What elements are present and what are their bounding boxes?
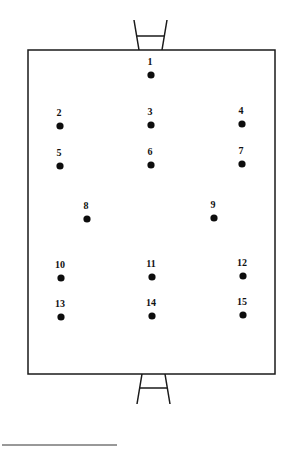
position-dot bbox=[147, 121, 154, 128]
position-dot bbox=[57, 313, 64, 320]
position-marker: 1 bbox=[147, 56, 154, 79]
position-dot bbox=[147, 161, 154, 168]
position-marker: 8 bbox=[83, 200, 90, 223]
field-boundary bbox=[28, 50, 275, 374]
position-label: 8 bbox=[84, 200, 89, 211]
position-label: 4 bbox=[239, 105, 244, 116]
position-dot bbox=[238, 160, 245, 167]
position-marker: 12 bbox=[237, 257, 247, 280]
position-dot bbox=[56, 122, 63, 129]
position-marker: 2 bbox=[56, 107, 63, 130]
position-label: 15 bbox=[237, 296, 247, 307]
position-marker: 13 bbox=[55, 298, 65, 321]
position-label: 10 bbox=[55, 259, 65, 270]
position-dot bbox=[210, 214, 217, 221]
position-dot bbox=[57, 274, 64, 281]
position-label: 14 bbox=[146, 297, 156, 308]
position-label: 1 bbox=[148, 56, 153, 67]
position-marker: 9 bbox=[210, 199, 217, 222]
top-goalposts bbox=[134, 20, 167, 50]
position-label: 5 bbox=[57, 147, 62, 158]
bottom-goalposts bbox=[137, 374, 170, 404]
position-marker: 3 bbox=[147, 106, 154, 129]
position-label: 13 bbox=[55, 298, 65, 309]
position-marker: 14 bbox=[146, 297, 156, 320]
position-dot bbox=[148, 312, 155, 319]
position-label: 2 bbox=[57, 107, 62, 118]
position-marker: 4 bbox=[238, 105, 245, 128]
position-label: 11 bbox=[146, 258, 155, 269]
field-diagram: 123456789101112131415 bbox=[0, 0, 292, 451]
position-label: 6 bbox=[148, 146, 153, 157]
position-dot bbox=[56, 162, 63, 169]
position-label: 3 bbox=[148, 106, 153, 117]
position-marker: 10 bbox=[55, 259, 65, 282]
position-dot bbox=[239, 272, 246, 279]
position-label: 7 bbox=[239, 145, 244, 156]
position-label: 12 bbox=[237, 257, 247, 268]
position-marker: 5 bbox=[56, 147, 63, 170]
position-marker: 11 bbox=[146, 258, 155, 281]
position-dot bbox=[148, 273, 155, 280]
position-label: 9 bbox=[211, 199, 216, 210]
position-marker: 15 bbox=[237, 296, 247, 319]
position-dot bbox=[83, 215, 90, 222]
position-marker: 6 bbox=[147, 146, 154, 169]
position-marker: 7 bbox=[238, 145, 245, 168]
position-dot bbox=[147, 71, 154, 78]
player-positions: 123456789101112131415 bbox=[55, 56, 247, 321]
position-dot bbox=[238, 120, 245, 127]
position-dot bbox=[239, 311, 246, 318]
